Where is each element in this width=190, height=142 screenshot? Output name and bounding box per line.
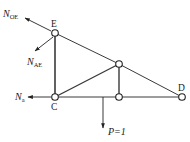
force-arrow-n-ae [35,37,53,51]
member-e-f [55,33,119,64]
force-subscript: AE [34,61,43,68]
force-label-n-ae: NAE [27,57,42,69]
force-label-n-a: Na [15,92,25,104]
member-f-d [119,64,182,97]
force-symbol: N [15,91,22,102]
node-label-d: D [178,84,185,94]
force-symbol: N [27,56,34,67]
force-arrow-n-oe [25,18,51,31]
node-e [52,30,59,37]
truss-diagram [0,0,190,142]
force-subscript: OE [10,13,19,20]
node-g [116,94,123,101]
member-c-f [55,64,119,97]
force-subscript: a [22,96,25,103]
node-f [116,61,123,68]
force-symbol: N [3,8,10,19]
node-label-e: E [51,20,57,30]
node-label-c: C [51,103,57,113]
load-label-p: P=1 [108,127,126,137]
force-label-n-oe: NOE [3,9,18,21]
node-c [52,94,59,101]
node-d [179,94,186,101]
